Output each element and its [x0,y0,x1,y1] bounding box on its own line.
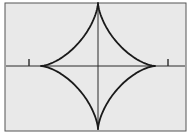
plot-frame [5,3,186,131]
figure-canvas [0,0,195,140]
astroid-figure [0,0,195,140]
